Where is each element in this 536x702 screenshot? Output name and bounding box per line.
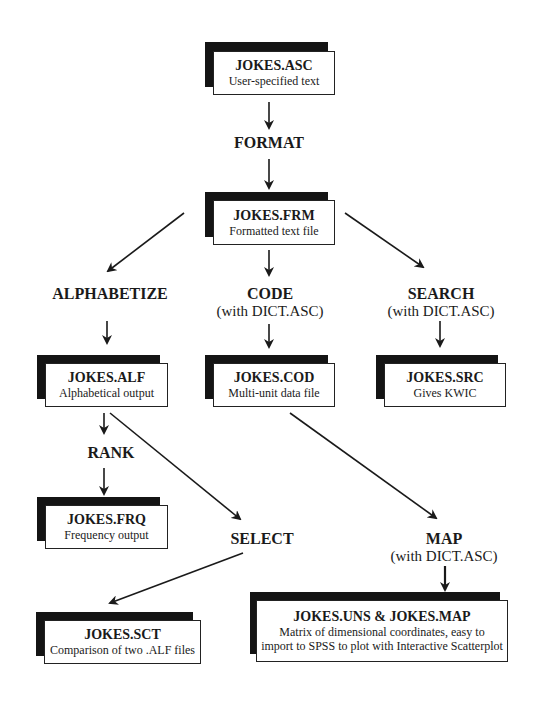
- file-subtitle: User-specified text: [229, 74, 320, 88]
- process-note: (with DICT.ASC): [390, 548, 497, 565]
- file-subtitle: Formatted text file: [229, 224, 318, 238]
- file-title: JOKES.FRM: [233, 208, 314, 224]
- file-title: JOKES.SCT: [84, 627, 161, 643]
- file-box: JOKES.ASC User-specified text: [213, 51, 335, 95]
- file-title: JOKES.ASC: [235, 58, 312, 74]
- process-rank: RANK: [87, 444, 134, 462]
- arrow-select-sct: [110, 553, 243, 603]
- arrow-frm-alphabetize: [108, 213, 184, 271]
- process-name: MAP: [390, 530, 497, 548]
- file-subtitle: Matrix of dimensional coordinates, easy …: [279, 625, 484, 639]
- file-subtitle: Comparison of two .ALF files: [50, 643, 195, 657]
- process-name: ALPHABETIZE: [52, 285, 168, 303]
- file-title: JOKES.COD: [234, 370, 315, 386]
- file-title: JOKES.SRC: [406, 370, 483, 386]
- process-name: SEARCH: [387, 285, 494, 303]
- file-box: JOKES.FRM Formatted text file: [213, 200, 335, 245]
- file-title: JOKES.FRQ: [67, 512, 146, 528]
- process-format: FORMAT: [234, 134, 304, 152]
- process-note: (with DICT.ASC): [387, 303, 494, 320]
- file-box: JOKES.UNS & JOKES.MAP Matrix of dimensio…: [256, 600, 508, 662]
- file-title: JOKES.ALF: [68, 370, 145, 386]
- file-box: JOKES.ALF Alphabetical output: [45, 363, 168, 407]
- file-title: JOKES.UNS & JOKES.MAP: [293, 609, 470, 625]
- arrow-cod-map: [290, 413, 436, 518]
- process-select: SELECT: [230, 530, 293, 548]
- file-box: JOKES.COD Multi-unit data file: [213, 363, 335, 407]
- process-map: MAP (with DICT.ASC): [390, 530, 497, 565]
- file-box: JOKES.FRQ Frequency output: [45, 505, 168, 549]
- process-name: SELECT: [230, 530, 293, 548]
- process-code: CODE (with DICT.ASC): [216, 285, 323, 320]
- file-subtitle-line2: import to SPSS to plot with Interactive …: [261, 639, 503, 653]
- file-subtitle: Alphabetical output: [59, 386, 154, 400]
- process-search: SEARCH (with DICT.ASC): [387, 285, 494, 320]
- process-name: CODE: [216, 285, 323, 303]
- process-note: (with DICT.ASC): [216, 303, 323, 320]
- file-box: JOKES.SRC Gives KWIC: [384, 363, 506, 407]
- file-subtitle: Gives KWIC: [414, 386, 477, 400]
- process-name: FORMAT: [234, 134, 304, 152]
- file-box: JOKES.SCT Comparison of two .ALF files: [44, 620, 201, 664]
- file-subtitle: Frequency output: [64, 528, 148, 542]
- process-alphabetize: ALPHABETIZE: [52, 285, 168, 303]
- process-name: RANK: [87, 444, 134, 462]
- arrow-frm-search: [345, 213, 423, 267]
- file-subtitle: Multi-unit data file: [228, 386, 319, 400]
